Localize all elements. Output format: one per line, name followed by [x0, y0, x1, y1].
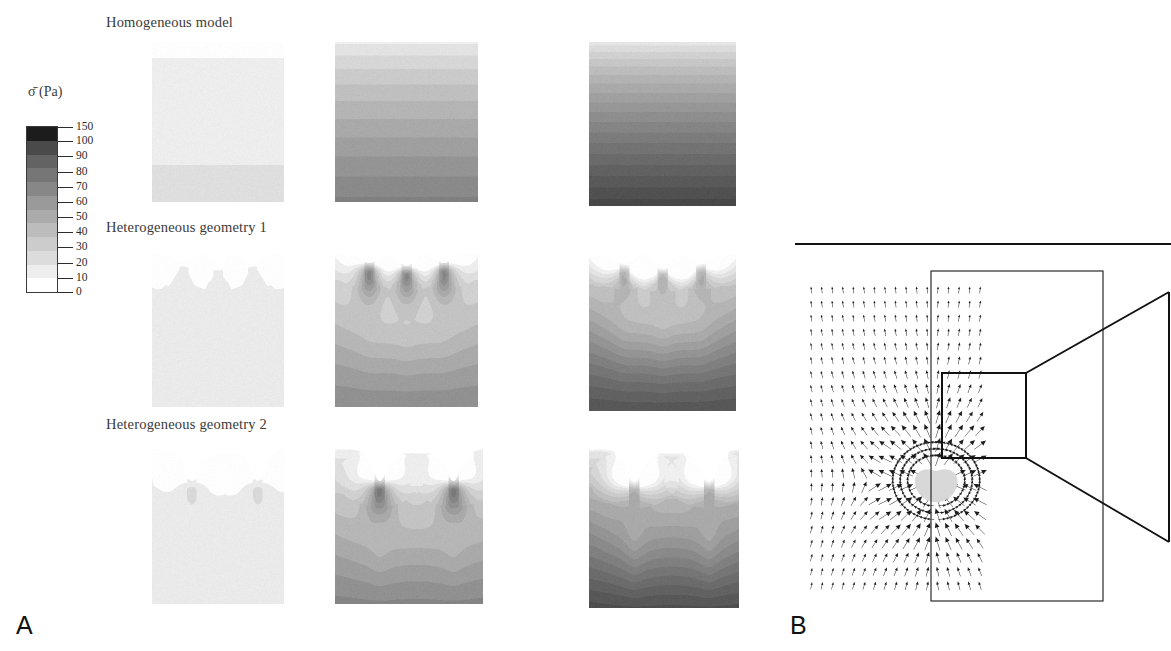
colorbar-segment: [27, 155, 57, 169]
stress-map-homogeneous-load1: [152, 36, 284, 202]
stress-map-hetero1-load3: [589, 247, 736, 411]
colorbar-tick: [58, 187, 73, 188]
colorbar-tick: [58, 141, 73, 142]
zoom-callout-overlay: [930, 270, 1171, 610]
colorbar-segment: [27, 168, 57, 182]
colorbar-gradient: [26, 126, 58, 293]
row-label-homogeneous: Homogeneous model: [106, 14, 233, 31]
colorbar-tick-label: 40: [76, 226, 88, 237]
colorbar-ticks: [58, 126, 76, 293]
colorbar-segment: [27, 237, 57, 251]
colorbar-tick-label: 10: [76, 272, 88, 283]
callout-leader-top: [1026, 292, 1169, 373]
colorbar-segment: [27, 251, 57, 265]
colorbar-tick: [58, 278, 73, 279]
colorbar-segment: [27, 182, 57, 196]
row-label-heterogeneous-2: Heterogeneous geometry 2: [106, 416, 267, 433]
stress-map-hetero2-load1: [152, 443, 284, 604]
colorbar-title: σ̄ (Pa): [28, 84, 62, 100]
stress-map-hetero2-load2: [335, 443, 483, 604]
colorbar-tick: [58, 156, 73, 157]
colorbar-segment: [27, 196, 57, 210]
colorbar-tick: [58, 232, 73, 233]
colorbar-segment: [27, 223, 57, 237]
colorbar-tick-label: 80: [76, 166, 88, 177]
colorbar-segment: [27, 265, 57, 279]
colorbar-tick: [58, 217, 73, 218]
colorbar-tick-labels: 1501009080706050403020100: [76, 120, 116, 300]
colorbar-tick: [58, 247, 73, 248]
colorbar-tick-label: 50: [76, 211, 88, 222]
panel-label-b: B: [790, 611, 807, 640]
stress-map-hetero1-load2: [335, 247, 478, 407]
colorbar-segment: [27, 141, 57, 155]
colorbar-tick-label: 100: [76, 135, 93, 146]
colorbar: σ̄ (Pa) 1501009080706050403020100: [20, 84, 140, 304]
figure-root: σ̄ (Pa) 1501009080706050403020100 Homoge…: [0, 0, 1171, 651]
colorbar-tick: [58, 292, 73, 293]
colorbar-tick-label: 70: [76, 181, 88, 192]
callout-leader-bottom: [1026, 458, 1169, 542]
colorbar-segment: [27, 210, 57, 224]
stress-map-hetero1-load1: [152, 247, 284, 407]
stress-map-hetero2-load3: [589, 443, 739, 608]
colorbar-tick: [58, 202, 73, 203]
colorbar-tick-label: 60: [76, 196, 88, 207]
field-frame: [931, 271, 1103, 601]
colorbar-tick-label: 30: [76, 241, 88, 252]
stress-map-homogeneous-load2: [335, 36, 478, 202]
panel-label-a: A: [16, 611, 33, 640]
colorbar-segment: [27, 127, 57, 141]
stress-map-homogeneous-load3: [589, 36, 736, 206]
row-label-heterogeneous-1: Heterogeneous geometry 1: [106, 219, 267, 236]
panel-b-divider-rule: [795, 243, 1171, 245]
colorbar-tick: [58, 172, 73, 173]
zoom-region-box: [942, 373, 1026, 458]
colorbar-segment: [27, 278, 57, 292]
colorbar-tick-label: 20: [76, 257, 88, 268]
colorbar-tick: [58, 263, 73, 264]
colorbar-tick: [58, 127, 73, 128]
colorbar-tick-label: 90: [76, 150, 88, 161]
colorbar-tick-label: 150: [76, 121, 93, 132]
colorbar-tick-label: 0: [76, 286, 82, 297]
callout-lines-svg: [930, 270, 1171, 610]
